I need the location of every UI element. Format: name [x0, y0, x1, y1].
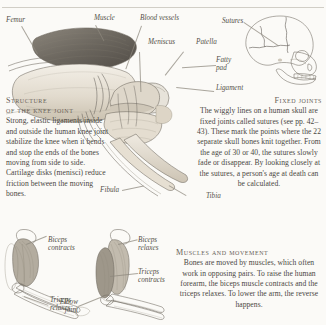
thigh-muscle-shape: [33, 28, 137, 70]
label-femur: Femur: [6, 16, 25, 24]
fixed-joints-block: Fixed joints The wiggly lines on a human…: [196, 96, 322, 189]
fixed-joints-heading: Fixed joints: [196, 96, 322, 106]
label-triceps-contracts: Triceps contracts: [138, 268, 165, 284]
fixed-joints-body-text: The wiggly lines on a human skull are fi…: [197, 106, 321, 188]
label-fatty-pad: Fatty pad: [216, 56, 231, 72]
label-blood-vessels: Blood vessels: [140, 14, 179, 22]
skull-illustration: [236, 12, 326, 92]
label-muscle: Muscle: [94, 14, 115, 22]
top-rule-divider: [2, 7, 324, 8]
muscles-body-text: Bones are moved by muscles, which often …: [180, 258, 318, 309]
skull-outline: [246, 16, 317, 84]
label-patella: Patella: [196, 38, 217, 46]
label-biceps-contracts: Biceps contracts: [48, 236, 75, 252]
structure-heading-line2: of the knee joint: [6, 106, 110, 116]
upper-arm-extended: [5, 229, 39, 290]
forearm-flexed: [101, 294, 165, 320]
encyclopedia-page: Femur Muscle Blood vessels Meniscus Pate…: [0, 0, 326, 325]
muscles-and-movement-block: Muscles and movement Bones are moved by …: [176, 248, 322, 310]
label-elbow-joint: Elbow joint: [46, 298, 78, 314]
muscles-heading: Muscles and movement: [176, 248, 322, 258]
label-biceps-relaxes: Biceps relaxes: [138, 236, 159, 252]
label-meniscus: Meniscus: [148, 38, 175, 46]
upper-arm-flexed: [96, 229, 130, 298]
structure-body-text: Strong, elastic ligaments inside and out…: [6, 116, 108, 198]
skull-suture-lines: [249, 17, 290, 53]
label-tibia: Tibia: [206, 192, 221, 200]
structure-heading-line1: Structure: [6, 96, 110, 106]
label-sutures: Sutures: [222, 17, 243, 25]
structure-of-knee-joint-block: Structure of the knee joint Strong, elas…: [6, 96, 110, 200]
